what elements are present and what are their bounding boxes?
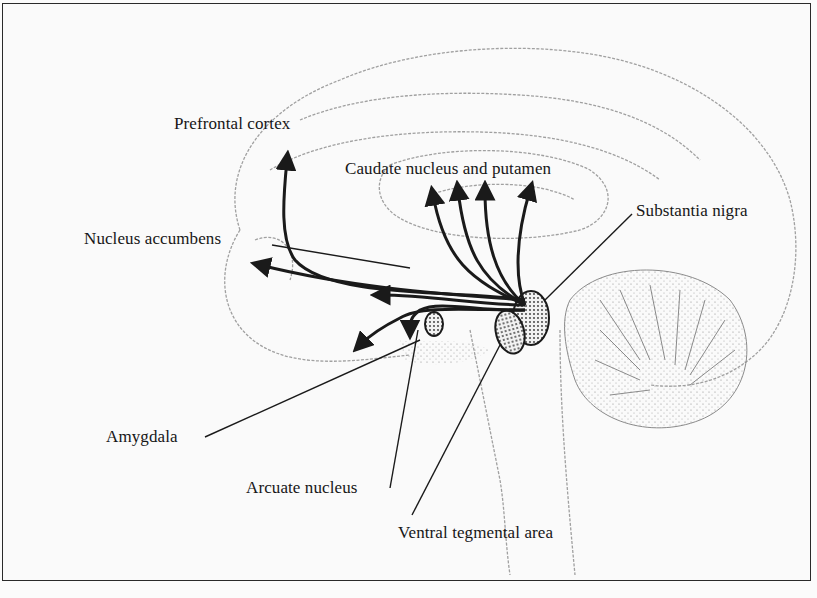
label-substantia-nigra: Substantia nigra (636, 201, 748, 221)
label-nucleus-accumbens: Nucleus accumbens (84, 229, 221, 249)
brain-illustration (0, 0, 817, 598)
dopamine-pathways (260, 160, 530, 345)
cerebellum (565, 270, 747, 428)
leader-lines (205, 214, 632, 515)
label-amygdala: Amygdala (106, 427, 178, 447)
arcuate-shape (425, 312, 443, 336)
label-prefrontal-cortex: Prefrontal cortex (174, 114, 290, 134)
label-arcuate-nucleus: Arcuate nucleus (246, 478, 357, 498)
label-ventral-tegmental-area: Ventral tegmental area (398, 523, 553, 543)
label-caudate-putamen: Caudate nucleus and putamen (345, 159, 551, 179)
